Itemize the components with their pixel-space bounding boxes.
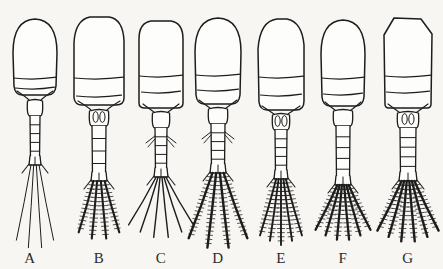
seta-barb — [328, 214, 336, 215]
seta-barb — [289, 203, 297, 204]
seta-barb — [261, 223, 268, 224]
seta-barb — [110, 212, 118, 213]
prosome-outline-B — [74, 17, 124, 105]
seta-barb — [115, 228, 121, 229]
genital-segment-C — [152, 112, 169, 129]
seta-barb — [421, 228, 427, 229]
genital-segment-A — [27, 100, 42, 117]
lateral-spine-left — [202, 132, 211, 139]
seta-barb — [295, 223, 302, 224]
seta-barb — [415, 204, 423, 205]
seta-barb — [288, 199, 295, 200]
seta-barb — [356, 231, 362, 232]
seta-barb — [262, 215, 269, 216]
seta-barb — [326, 222, 333, 223]
caudal-seta-2 — [154, 177, 160, 237]
seta-barb — [391, 216, 398, 217]
figure-plate: ABCDEFG — [0, 0, 443, 269]
seta-barb — [418, 216, 425, 217]
seta-barb — [353, 222, 360, 223]
seta-barb — [82, 208, 90, 209]
genital-segment-B — [89, 110, 108, 127]
accessory-seta-right — [41, 164, 48, 173]
seta-barb — [85, 196, 92, 197]
seta-barb — [352, 218, 359, 219]
accessory-seta-left — [22, 164, 29, 173]
seta-barb — [389, 224, 396, 225]
seta-barb — [108, 204, 116, 205]
seta-barb — [109, 208, 117, 209]
seta-barb — [287, 195, 294, 196]
caudal-seta-3 — [162, 177, 168, 237]
seta-barb — [290, 207, 298, 208]
seta-barb — [417, 212, 425, 213]
seta-barb — [86, 192, 93, 193]
seta-barb — [262, 219, 269, 220]
caudal-seta-0 — [16, 165, 31, 240]
seta-barb — [351, 214, 359, 215]
seta-barb — [259, 231, 265, 232]
urosome-tube-F — [336, 126, 350, 180]
lateral-spine-left — [146, 136, 155, 143]
seta-barb — [297, 231, 303, 232]
seta-barb — [293, 219, 300, 220]
seta-barb — [260, 227, 266, 228]
prosome-outline-C — [139, 21, 183, 108]
prosome-outline-G — [384, 18, 432, 108]
seta-barb — [191, 226, 197, 227]
seta-barb — [78, 228, 84, 229]
prosome-outline-F — [321, 20, 365, 106]
caudal-seta-5 — [166, 177, 194, 225]
seta-barb — [416, 208, 424, 209]
seta-barb — [291, 211, 299, 212]
seta-barb — [106, 196, 113, 197]
seta-barb — [84, 200, 92, 201]
specimen-G — [377, 18, 438, 241]
lateral-spine-right — [167, 136, 176, 143]
specimen-E — [258, 19, 304, 245]
seta-barb — [83, 204, 91, 205]
copepod-illustration — [0, 0, 443, 269]
caudal-seta-3 — [39, 165, 54, 240]
seta-barb — [388, 228, 394, 229]
seta-barb — [81, 212, 89, 213]
specimen-F — [316, 20, 371, 240]
specimen-D — [189, 18, 248, 248]
seta-barb — [395, 200, 402, 201]
seta-barb — [394, 204, 402, 205]
seta-barb — [79, 224, 85, 225]
urosome-tube-D — [211, 124, 225, 168]
urosome-tube-G — [400, 128, 416, 176]
seta-barb — [296, 227, 302, 228]
seta-barb — [292, 215, 299, 216]
seta-barb — [420, 224, 427, 225]
urosome-tube-C — [155, 128, 167, 172]
seta-barb — [105, 192, 112, 193]
seta-barb — [239, 226, 245, 227]
seta-barb — [325, 231, 331, 232]
genital-segment-G — [397, 112, 418, 129]
urosome-tube-E — [275, 130, 287, 174]
urosome-tube-A — [30, 116, 40, 160]
specimen-B — [74, 17, 124, 239]
seta-barb — [104, 188, 110, 189]
seta-barb — [354, 227, 360, 228]
genital-segment-D — [208, 108, 227, 125]
seta-barb — [111, 216, 118, 217]
seta-barb — [80, 216, 87, 217]
seta-barb — [325, 227, 331, 228]
seta-barb — [393, 208, 401, 209]
caudal-seta-0 — [129, 177, 157, 225]
specimen-C — [129, 21, 194, 237]
seta-barb — [113, 224, 119, 225]
seta-barb — [390, 220, 397, 221]
seta-barb — [107, 200, 115, 201]
prosome-outline-A — [13, 19, 57, 95]
seta-barb — [112, 220, 119, 221]
genital-segment-F — [333, 110, 352, 127]
specimen-A — [13, 19, 57, 248]
seta-barb — [286, 191, 293, 192]
seta-barb — [392, 212, 400, 213]
lateral-spine-right — [225, 132, 234, 139]
seta-barb — [327, 218, 334, 219]
